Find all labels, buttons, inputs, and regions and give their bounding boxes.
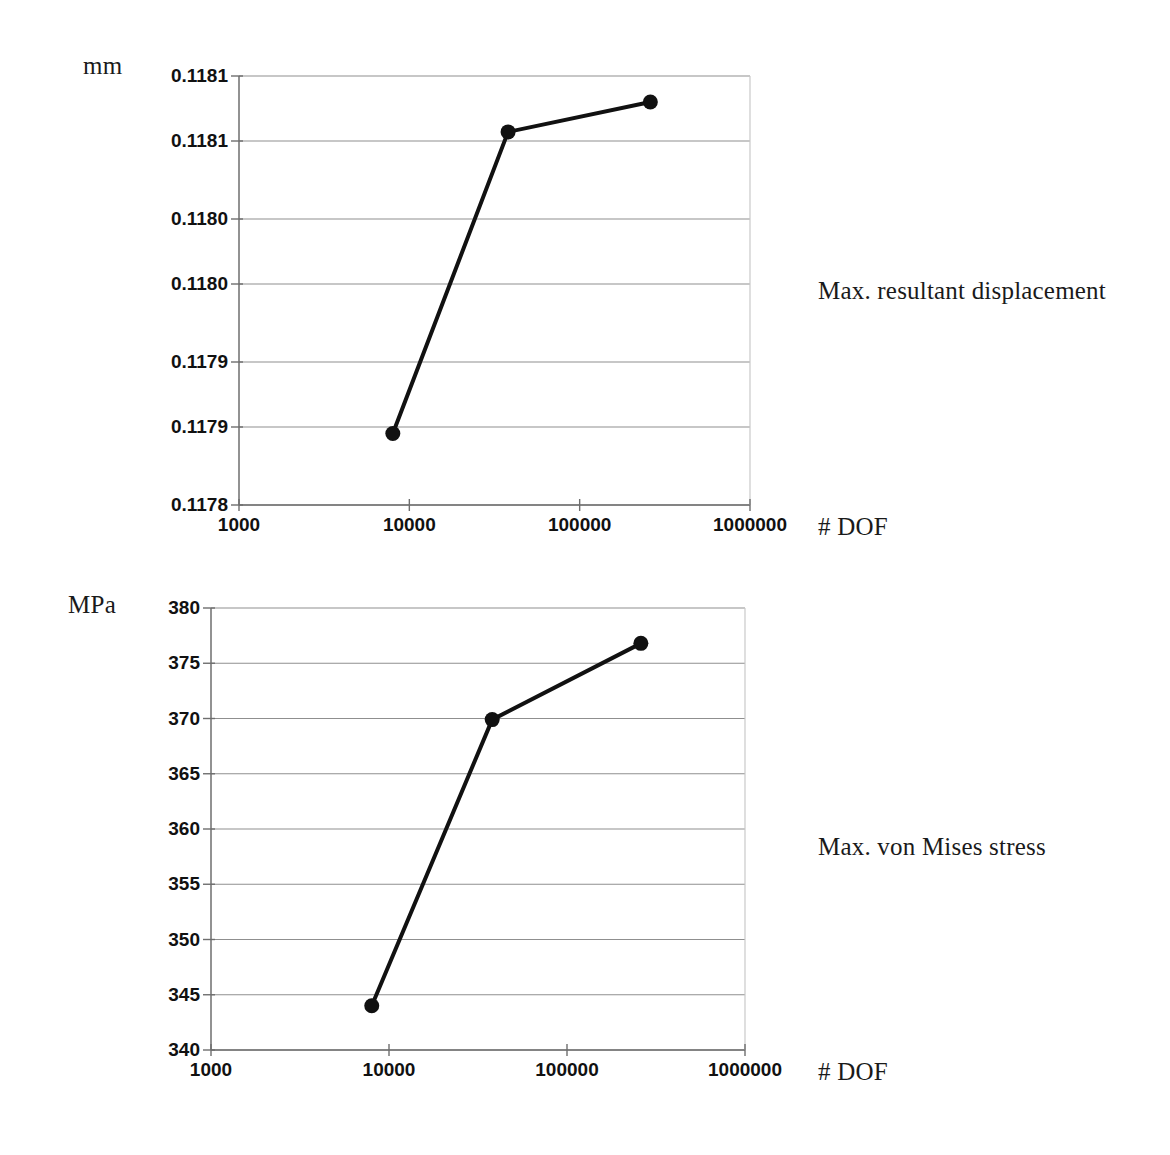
series-line xyxy=(372,643,641,1005)
x-axis-title: # DOF xyxy=(818,1058,888,1086)
data-point-marker xyxy=(364,998,379,1013)
panel-annotation-stress: Max. von Mises stress xyxy=(818,833,1046,861)
data-point-marker xyxy=(633,636,648,651)
plot-area-stress xyxy=(0,0,1170,1155)
figure-root: mm 0.11810.11810.11800.11800.11790.11790… xyxy=(0,0,1170,1155)
chart-panel-stress: MPa 380375370365360355350345340 10001000… xyxy=(0,0,1170,1155)
data-point-marker xyxy=(485,712,500,727)
